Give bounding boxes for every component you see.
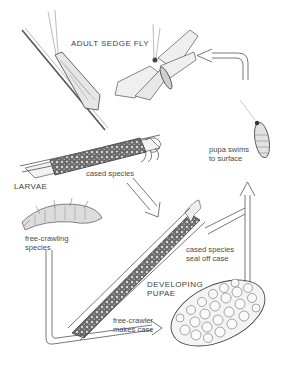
label-cased-species: cased species bbox=[86, 169, 134, 178]
label-cased-species-seal: cased species seal off case bbox=[186, 245, 234, 263]
arrow-to-adult bbox=[212, 58, 243, 80]
arrow-up-to-pupa bbox=[245, 195, 250, 282]
label-adult-sedge-fly: ADULT SEDGE FLY bbox=[71, 39, 149, 48]
free-crawling-larva-icon bbox=[22, 198, 102, 230]
life-cycle-diagram: ADULT SEDGE FLY cased species LARVAE fre… bbox=[0, 0, 295, 386]
arrow-cased-larva-to-pupa bbox=[127, 178, 157, 210]
label-larvae: LARVAE bbox=[14, 182, 47, 191]
flying-adult-icon bbox=[115, 24, 198, 100]
label-pupa-swims: pupa swims to surface bbox=[209, 145, 249, 163]
label-developing-pupae: DEVELOPING PUPAE bbox=[147, 280, 203, 298]
resting-adult-icon bbox=[22, 10, 108, 130]
label-free-crawling-species: free-crawling species bbox=[25, 234, 68, 252]
label-free-crawler-makes-case: free-crawler makes case bbox=[113, 316, 154, 334]
